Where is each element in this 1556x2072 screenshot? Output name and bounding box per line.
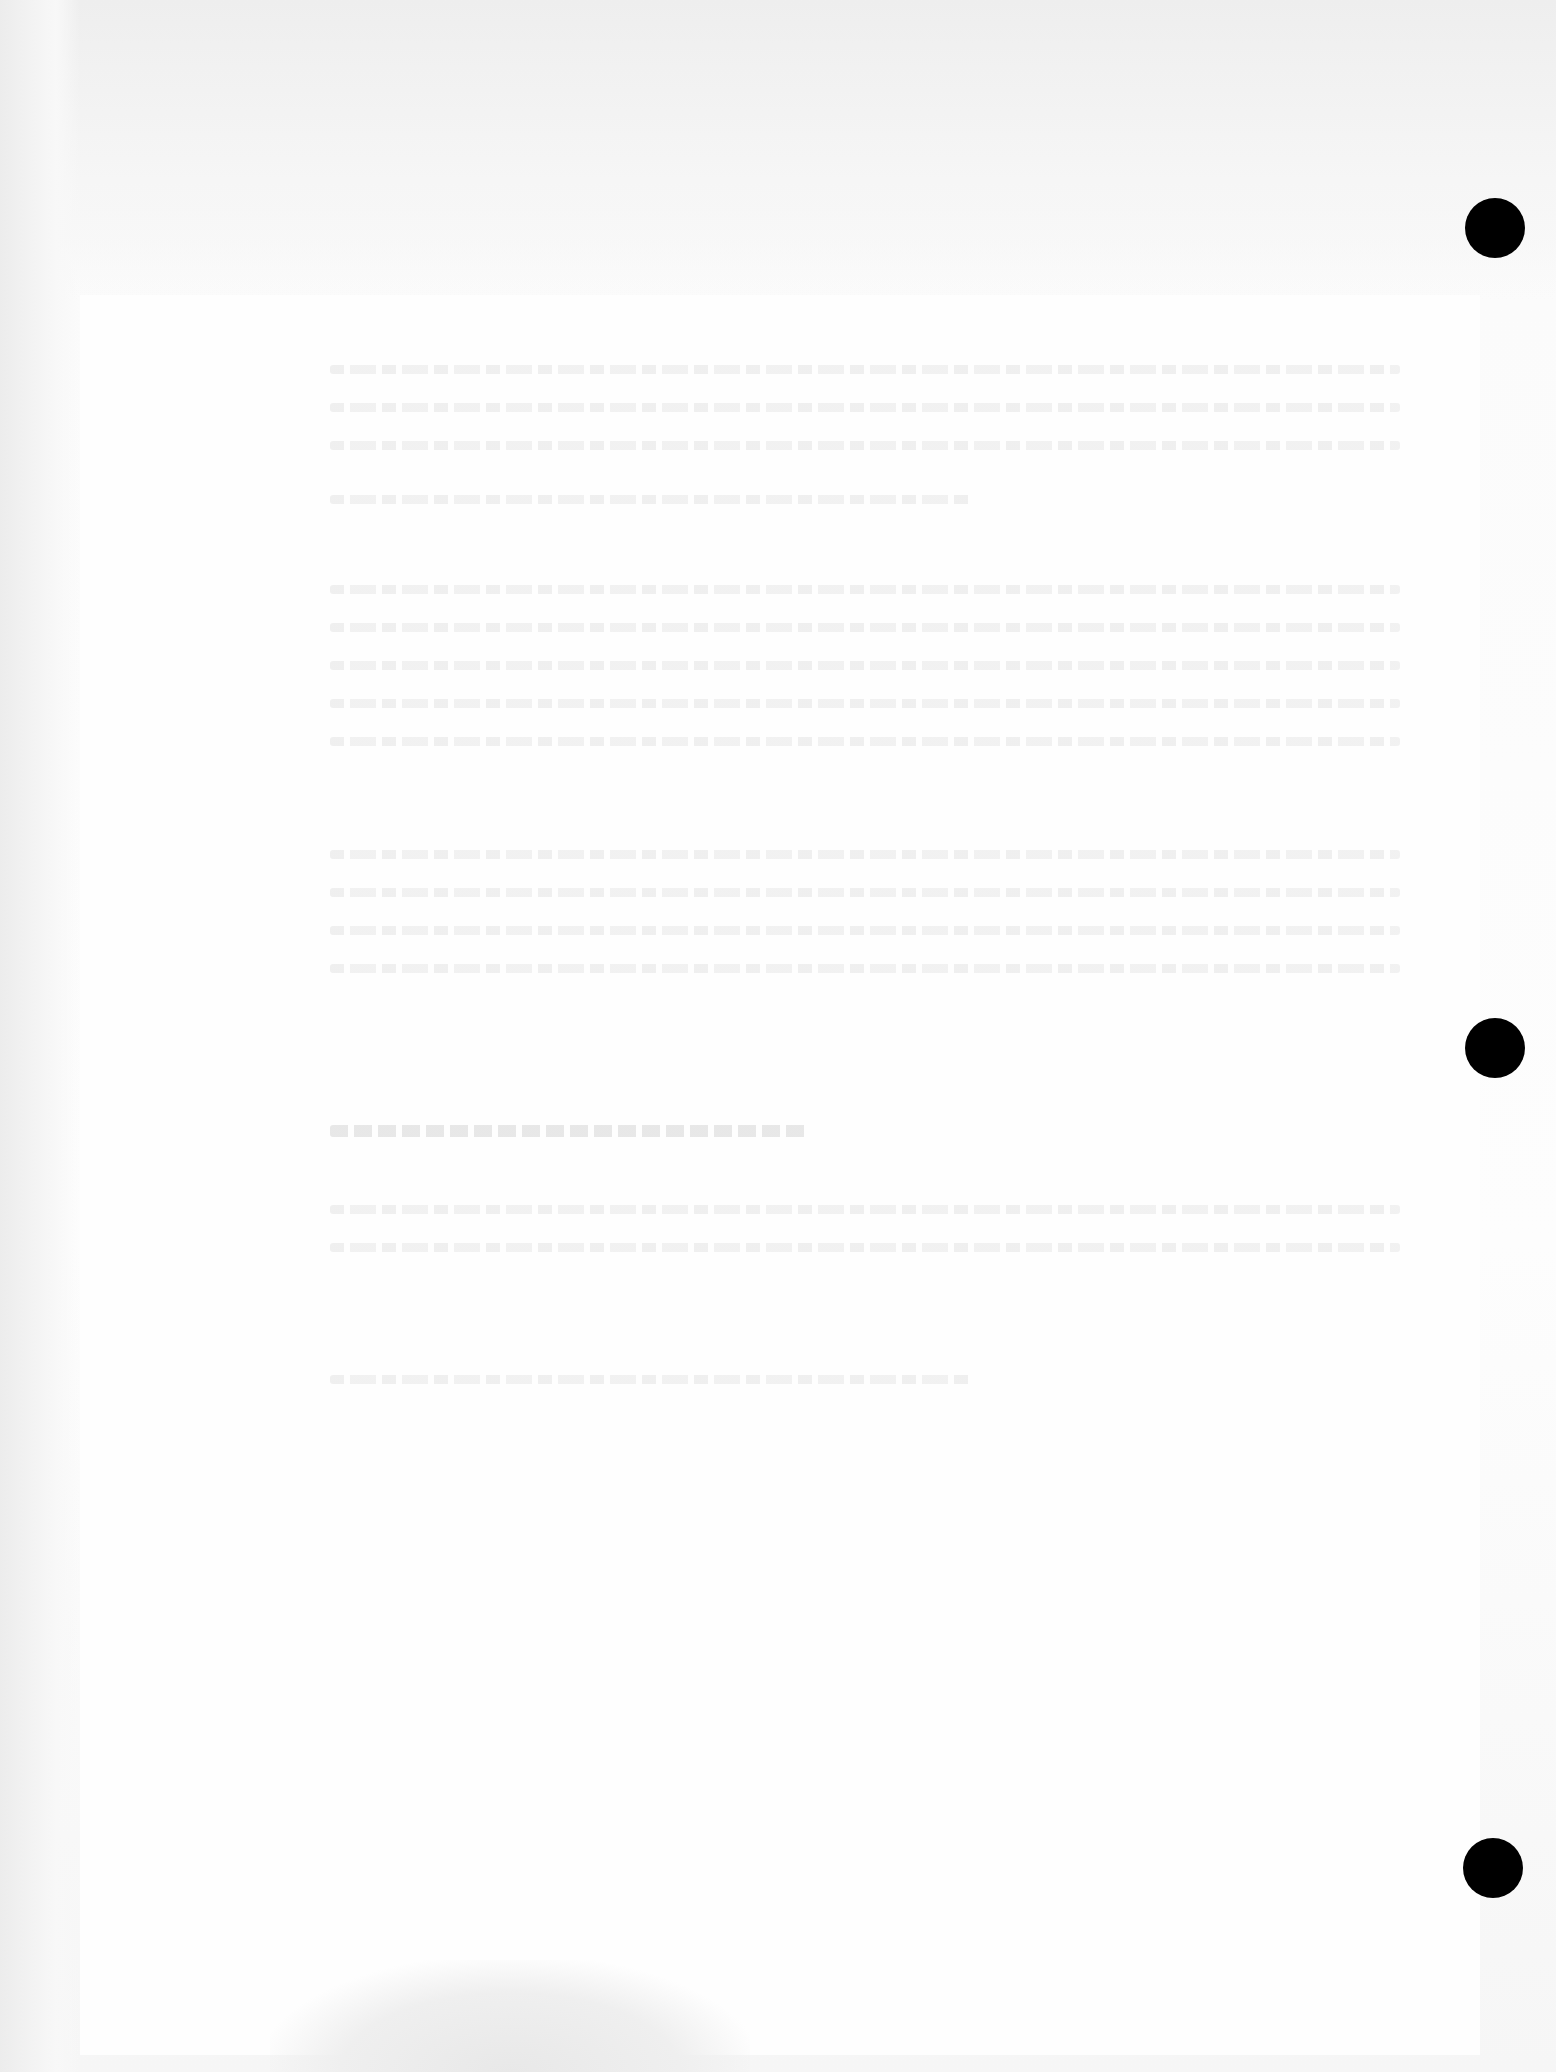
text-line (330, 1243, 1400, 1252)
paragraph-7: [illegible faded text] (330, 1375, 1400, 1413)
text-line (330, 585, 1400, 594)
text-line (330, 850, 1400, 859)
text-line (330, 1375, 972, 1384)
paper-stain (270, 1960, 750, 2072)
text-line (330, 495, 972, 504)
faded-heading: [illegible faded heading] (330, 1125, 810, 1137)
text-line (330, 365, 1400, 374)
punch-hole-middle (1465, 1018, 1525, 1078)
text-line (330, 1205, 1400, 1214)
paragraph-3: [illegible faded text] (330, 585, 1400, 775)
paragraph-2: [illegible faded text] (330, 495, 1400, 533)
paragraph-4: [illegible faded text] (330, 850, 1400, 1002)
text-line (330, 926, 1400, 935)
text-line (330, 888, 1400, 897)
text-line (330, 964, 1400, 973)
text-line (330, 441, 1400, 450)
document-page (80, 295, 1480, 2055)
text-line (330, 699, 1400, 708)
paragraph-1: [illegible faded text] (330, 365, 1400, 479)
scan-left-edge (0, 0, 80, 2072)
text-line (330, 661, 1400, 670)
text-line (330, 403, 1400, 412)
paragraph-6: [illegible faded text] (330, 1205, 1400, 1281)
scan-top-shadow (0, 0, 1556, 300)
punch-hole-bottom (1463, 1838, 1523, 1898)
punch-hole-top (1465, 198, 1525, 258)
text-line (330, 737, 1400, 746)
text-line (330, 623, 1400, 632)
